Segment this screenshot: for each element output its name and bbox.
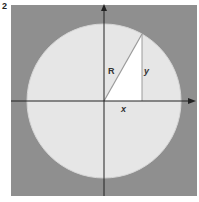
label-y: y — [143, 66, 150, 76]
label-R: R — [108, 66, 115, 76]
label-x: x — [120, 104, 127, 114]
circle-diagram: R y x — [0, 0, 199, 202]
